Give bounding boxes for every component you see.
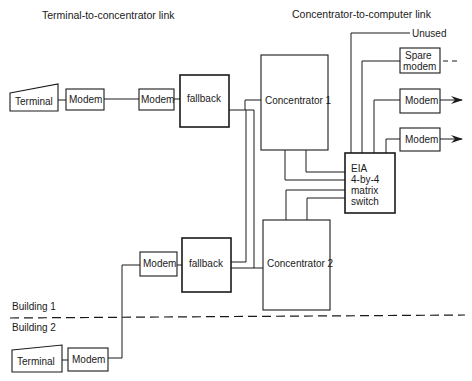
wire-conc2-switch-b	[307, 198, 345, 220]
concentrator-1: Concentrator 1	[261, 55, 332, 150]
building-divider	[10, 315, 465, 318]
terminal-2: Terminal	[12, 345, 62, 372]
switch-label-line-4: switch	[351, 196, 379, 207]
modem-output-b: Modem	[400, 128, 440, 151]
concentrator-2: Concentrator 2	[263, 220, 334, 310]
title-concentrator-to-computer: Concentrator-to-computer link	[292, 8, 432, 20]
wire-fallback1-conc2	[245, 110, 263, 268]
wire-building2-modem-link	[108, 265, 140, 358]
modem-output-a: Modem	[400, 89, 440, 113]
wire-fallback1-conc1	[229, 100, 261, 110]
modem-output-a-label: Modem	[405, 95, 438, 106]
modem-building1-local: Modem	[66, 89, 104, 110]
fallback-1: fallback	[180, 75, 229, 127]
modem-3-label: Modem	[143, 258, 176, 269]
modem-building1-remote: Modem	[139, 89, 174, 110]
title-terminal-to-concentrator: Terminal-to-concentrator link	[42, 9, 175, 21]
eia-matrix-switch: EIA 4-by-4 matrix switch	[345, 153, 395, 213]
building-2-label: Building 2	[12, 322, 56, 333]
spare-modem-label-line-2: modem	[403, 61, 436, 72]
wire-conc1-switch-a	[306, 150, 345, 172]
wire-switch-modem-a	[374, 100, 400, 153]
building-1-label: Building 1	[12, 301, 56, 312]
modem-2-label: Modem	[141, 94, 174, 105]
network-diagram: Terminal-to-concentrator link Concentrat…	[0, 0, 472, 381]
spare-modem: Spare modem	[400, 48, 440, 73]
wire-fallback2-conc1	[231, 110, 246, 262]
fallback-1-label: fallback	[187, 93, 222, 104]
wire-conc2-switch-a	[286, 190, 345, 220]
concentrator-1-label: Concentrator 1	[265, 95, 332, 106]
modem-building2-local: Modem	[68, 348, 108, 371]
switch-label-line-1: EIA	[351, 163, 367, 174]
spare-modem-label-line-1: Spare	[405, 50, 432, 61]
modem-output-b-label: Modem	[405, 134, 438, 145]
modem-4-label: Modem	[72, 354, 105, 365]
switch-label-line-2: 4-by-4	[351, 174, 380, 185]
modem-building2-remote: Modem	[140, 252, 177, 276]
concentrator-2-label: Concentrator 2	[267, 258, 334, 269]
wire-conc1-switch-b	[285, 150, 345, 180]
unused-label: Unused	[412, 28, 446, 39]
terminal-1: Terminal	[10, 84, 58, 111]
wire-switch-modem-b	[386, 139, 400, 153]
fallback-2: fallback	[182, 238, 231, 292]
terminal-2-label: Terminal	[17, 356, 55, 367]
fallback-2-label: fallback	[189, 258, 224, 269]
switch-label-line-3: matrix	[351, 185, 378, 196]
terminal-1-label: Terminal	[15, 96, 53, 107]
modem-1-label: Modem	[69, 94, 102, 105]
